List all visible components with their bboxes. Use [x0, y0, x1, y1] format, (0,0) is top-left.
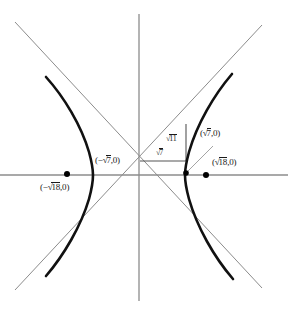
label-leg-vertical: √11 — [166, 134, 177, 143]
vertex-left-rest: ,0) — [111, 155, 120, 165]
focus-right-radicand: 18 — [219, 157, 228, 167]
hyperbola-right-branch — [185, 74, 233, 279]
focus-left-radicand: 18 — [51, 182, 60, 192]
sqrt-icon: √11 — [166, 134, 177, 143]
label-focus-left: (−√18,0) — [40, 182, 69, 192]
vertex-left-radicand: 7 — [106, 155, 110, 165]
label-vertex-left: (−√7,0) — [95, 155, 120, 165]
label-leg-horizontal: √7 — [156, 148, 163, 157]
focus-left-point — [64, 171, 70, 177]
vertex-right-radicand: 7 — [207, 128, 211, 138]
hyperbola-left-branch — [46, 77, 93, 276]
focus-left-open: (− — [40, 182, 48, 192]
sqrt-icon: √7 — [103, 155, 111, 165]
focus-left-rest: ,0) — [60, 182, 69, 192]
label-focus-right: (√18,0) — [212, 157, 236, 167]
hyperbola-figure: (√7,0) (−√7,0) (√18,0) (−√18,0) √11 √7 — [0, 0, 288, 314]
vertex-right-point — [183, 170, 189, 176]
vertex-right-rest: ,0) — [211, 128, 220, 138]
sqrt-icon: √7 — [156, 148, 163, 157]
label-vertex-right: (√7,0) — [200, 128, 220, 138]
sqrt-icon: √18 — [48, 182, 60, 192]
leg-horizontal-radicand: 7 — [159, 148, 163, 157]
sqrt-icon: √18 — [215, 157, 227, 167]
figure-canvas — [0, 0, 288, 314]
vertex-left-open: (− — [95, 155, 103, 165]
sqrt-icon: √7 — [203, 128, 211, 138]
leg-vertical-radicand: 11 — [169, 134, 176, 143]
focus-right-point — [203, 172, 209, 178]
focus-right-rest: ,0) — [227, 157, 236, 167]
